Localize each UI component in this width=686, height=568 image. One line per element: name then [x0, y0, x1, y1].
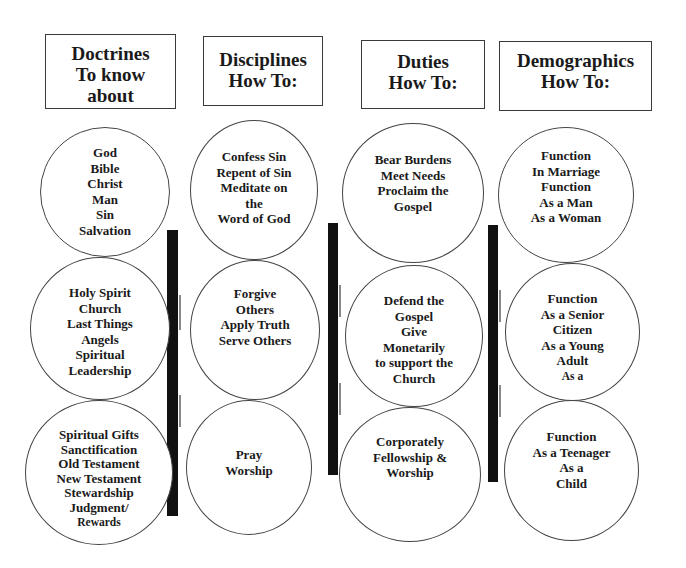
- circle-line: to support the: [346, 355, 482, 371]
- circle-line: Meditate on: [191, 180, 317, 196]
- circle-line: Worship: [340, 465, 480, 481]
- circle-line: Bible: [41, 161, 169, 177]
- circle-line: Church: [346, 371, 482, 387]
- circle-line: Sanctification: [26, 443, 172, 458]
- circle-line: Function: [499, 179, 633, 195]
- header-line: Disciplines: [204, 49, 322, 70]
- circle-line: Corporately: [340, 434, 480, 450]
- circle-line: Citizen: [506, 322, 639, 338]
- demographics-circle-1: Function In Marriage Function As a Man A…: [498, 127, 634, 263]
- header-line: To know: [46, 64, 175, 85]
- circle-line: Function: [505, 429, 638, 445]
- demographics-circle-2: Function As a Senior Citizen As a Young …: [505, 263, 640, 401]
- circle-line: Adult: [506, 353, 639, 369]
- circle-line: Man: [41, 192, 169, 208]
- circle-line: Judgment/: [26, 501, 172, 516]
- disciplines-circle-2: Forgive Others Apply Truth Serve Others: [190, 260, 320, 400]
- circle-line: New Testament: [26, 472, 172, 487]
- header-line: How To:: [362, 72, 484, 93]
- connector-bar-3: [488, 225, 498, 482]
- circle-line: Forgive: [191, 286, 319, 302]
- header-disciplines: Disciplines How To:: [203, 36, 323, 106]
- connector-bar-2: [328, 223, 338, 475]
- circle-line: Fellowship &: [340, 450, 480, 466]
- circle-line: Worship: [187, 463, 311, 479]
- duties-circle-2: Defend the Gospel Give Monetarily to sup…: [345, 265, 483, 407]
- circle-line: Rewards: [26, 515, 172, 530]
- circle-line: As a Woman: [499, 210, 633, 226]
- circle-line: Serve Others: [191, 333, 319, 349]
- circle-line: As a: [506, 369, 639, 385]
- circle-line: Meet Needs: [343, 168, 483, 184]
- circle-line: As a Young: [506, 338, 639, 354]
- doctrines-circle-1: God Bible Christ Man Sin Salvation: [40, 127, 170, 257]
- disciplines-circle-1: Confess Sin Repent of Sin Meditate on th…: [190, 120, 318, 260]
- circle-line: Proclaim the: [343, 183, 483, 199]
- header-line: How To:: [500, 71, 651, 92]
- header-line: Demographics: [500, 50, 651, 71]
- circle-line: Stewardship: [26, 486, 172, 501]
- circle-line: Apply Truth: [191, 317, 319, 333]
- circle-line: Sin: [41, 207, 169, 223]
- doctrines-circle-2: Holy Spirit Church Last Things Angels Sp…: [30, 257, 170, 400]
- circle-line: Repent of Sin: [191, 165, 317, 181]
- duties-circle-1: Bear Burdens Meet Needs Proclaim the Gos…: [342, 123, 484, 263]
- header-demographics: Demographics How To:: [499, 41, 652, 111]
- circle-line: Leadership: [31, 363, 169, 379]
- duties-circle-3: Corporately Fellowship & Worship: [339, 407, 481, 542]
- circle-line: As a Man: [499, 195, 633, 211]
- circle-line: Pray: [187, 447, 311, 463]
- circle-line: Bear Burdens: [343, 152, 483, 168]
- circle-line: Child: [505, 476, 638, 492]
- circle-line: Gospel: [343, 199, 483, 215]
- header-line: How To:: [204, 70, 322, 91]
- circle-line: As a: [505, 460, 638, 476]
- circle-line: As a Teenager: [505, 445, 638, 461]
- circle-line: Christ: [41, 176, 169, 192]
- circle-line: Last Things: [31, 316, 169, 332]
- circle-line: Function: [506, 291, 639, 307]
- demographics-circle-3: Function As a Teenager As a Child: [504, 400, 639, 541]
- circle-line: Spiritual Gifts: [26, 428, 172, 443]
- circle-line: Confess Sin: [191, 149, 317, 165]
- circle-line: Spiritual: [31, 347, 169, 363]
- circle-line: Angels: [31, 332, 169, 348]
- circle-line: Salvation: [41, 223, 169, 239]
- header-duties: Duties How To:: [361, 40, 485, 109]
- circle-line: Old Testament: [26, 457, 172, 472]
- header-line: Doctrines: [46, 43, 175, 64]
- circle-line: Word of God: [191, 211, 317, 227]
- circle-line: Defend the: [346, 293, 482, 309]
- circle-line: Function: [499, 148, 633, 164]
- circle-line: God: [41, 145, 169, 161]
- header-line: about: [46, 85, 175, 106]
- circle-line: Church: [31, 301, 169, 317]
- circle-line: Gospel: [346, 309, 482, 325]
- circle-line: In Marriage: [499, 164, 633, 180]
- doctrines-circle-3: Spiritual Gifts Sanctification Old Testa…: [25, 400, 173, 545]
- header-doctrines: Doctrines To know about: [45, 34, 176, 109]
- header-line: Duties: [362, 51, 484, 72]
- circle-line: As a Senior: [506, 307, 639, 323]
- circle-line: Monetarily: [346, 340, 482, 356]
- disciplines-circle-3: Pray Worship: [186, 400, 312, 535]
- circle-line: Holy Spirit: [31, 285, 169, 301]
- circle-line: the: [191, 196, 317, 212]
- circle-line: Others: [191, 302, 319, 318]
- circle-line: Give: [346, 324, 482, 340]
